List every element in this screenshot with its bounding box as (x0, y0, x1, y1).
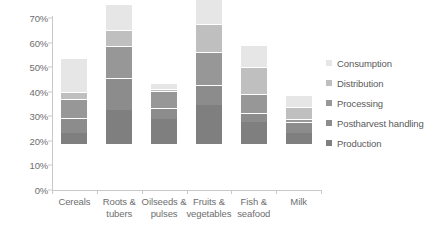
legend-label: Production (337, 138, 381, 149)
y-axis-tick-mark (48, 116, 52, 117)
bar-segment[interactable] (151, 91, 177, 108)
bar-segment[interactable] (61, 118, 87, 133)
y-axis-tick-mark (48, 67, 52, 68)
legend-item[interactable]: Postharvest handling (326, 113, 444, 133)
bar-segment[interactable] (196, 85, 222, 105)
y-axis-tick-mark (48, 165, 52, 166)
x-axis-category-label: Milk (270, 196, 328, 208)
legend-item[interactable]: Production (326, 133, 444, 153)
bar-segment[interactable] (286, 107, 312, 119)
bar-segment[interactable] (196, 105, 222, 144)
legend-item[interactable]: Distribution (326, 73, 444, 93)
x-axis-tick-mark (142, 190, 143, 194)
x-axis-labels: CerealsRoots &tubersOilseeds &pulsesFrui… (52, 196, 321, 236)
x-axis-tick-mark (276, 190, 277, 194)
legend-item[interactable]: Consumption (326, 53, 444, 73)
bar-group[interactable] (196, 0, 222, 144)
bar-group[interactable] (241, 45, 267, 144)
legend-label: Postharvest handling (337, 118, 424, 129)
bar-segment[interactable] (106, 4, 132, 30)
plot-bars (52, 0, 321, 191)
y-axis-tick-label: 50% (30, 62, 48, 73)
bar-segment[interactable] (106, 46, 132, 78)
y-axis-tick-label: 10% (30, 160, 48, 171)
legend-label: Distribution (337, 78, 383, 89)
bar-segment[interactable] (196, 0, 222, 24)
bar-segment[interactable] (286, 133, 312, 144)
y-axis-tick-label: 0% (35, 185, 48, 196)
bar-segment[interactable] (151, 119, 177, 144)
bar-stack (151, 83, 177, 144)
stacked-bar-chart: 0%10%20%30%40%50%60%70% CerealsRoots &tu… (0, 0, 446, 237)
y-axis-tick-mark (48, 91, 52, 92)
y-axis: 0%10%20%30%40%50%60%70% (0, 0, 48, 237)
bar-segment[interactable] (151, 108, 177, 119)
x-axis-tick-mark (52, 190, 53, 194)
bar-stack (61, 58, 87, 144)
x-axis-tick-mark (231, 190, 232, 194)
y-axis-tick-label: 60% (30, 37, 48, 48)
y-axis-tick-label: 20% (30, 135, 48, 146)
y-axis-tick-label: 40% (30, 86, 48, 97)
bar-stack (196, 0, 222, 144)
bar-segment[interactable] (286, 95, 312, 107)
bar-group[interactable] (286, 95, 312, 144)
bar-segment[interactable] (61, 99, 87, 119)
bar-segment[interactable] (241, 113, 267, 122)
bar-group[interactable] (106, 4, 132, 144)
y-axis-tick-mark (48, 42, 52, 43)
y-axis-tick-mark (48, 18, 52, 19)
chart-legend: ConsumptionDistributionProcessingPosthar… (326, 53, 444, 153)
bar-segment[interactable] (106, 30, 132, 46)
bar-segment[interactable] (241, 122, 267, 144)
x-axis-tick-mark (97, 190, 98, 194)
legend-item[interactable]: Processing (326, 93, 444, 113)
bar-group[interactable] (151, 83, 177, 144)
bar-segment[interactable] (196, 24, 222, 52)
bar-segment[interactable] (241, 94, 267, 114)
bar-group[interactable] (61, 58, 87, 144)
y-axis-tick-label: 30% (30, 111, 48, 122)
bar-segment[interactable] (61, 58, 87, 92)
legend-swatch-icon (326, 100, 332, 106)
bar-segment[interactable] (61, 133, 87, 144)
x-axis-tick-mark (321, 190, 322, 194)
bar-segment[interactable] (106, 110, 132, 144)
x-axis-tick-mark (187, 190, 188, 194)
legend-swatch-icon (326, 120, 332, 126)
y-axis-tick-label: 70% (30, 13, 48, 24)
bar-segment[interactable] (286, 122, 312, 133)
legend-label: Consumption (337, 58, 392, 69)
legend-swatch-icon (326, 60, 332, 66)
bar-segment[interactable] (106, 78, 132, 110)
bar-segment[interactable] (241, 67, 267, 94)
legend-label: Processing (337, 98, 383, 109)
bar-stack (106, 4, 132, 144)
bar-segment[interactable] (196, 52, 222, 85)
legend-swatch-icon (326, 140, 332, 146)
bar-segment[interactable] (241, 45, 267, 67)
y-axis-tick-mark (48, 140, 52, 141)
legend-swatch-icon (326, 80, 332, 86)
bar-stack (241, 45, 267, 144)
bar-stack (286, 95, 312, 144)
